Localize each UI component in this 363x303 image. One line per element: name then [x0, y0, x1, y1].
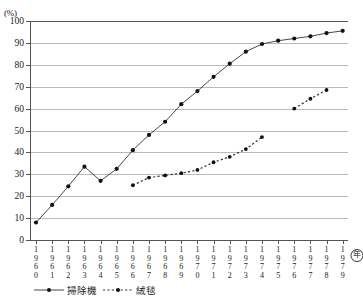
data-point — [98, 179, 102, 183]
data-point — [260, 42, 264, 46]
data-point — [341, 29, 345, 33]
data-point — [244, 50, 248, 54]
data-point — [179, 171, 183, 175]
data-point — [244, 147, 248, 151]
data-point — [115, 167, 119, 171]
data-point — [66, 184, 70, 188]
data-point — [211, 75, 215, 79]
data-point — [212, 160, 216, 164]
data-point — [131, 148, 135, 152]
data-point — [228, 155, 232, 159]
data-point — [324, 31, 328, 35]
legend-item-絨毯[interactable]: 絨毯 — [103, 283, 156, 297]
data-point — [163, 173, 167, 177]
legend-label: 絨毯 — [136, 283, 156, 297]
data-point — [163, 120, 167, 124]
data-point — [131, 183, 135, 187]
data-point — [292, 36, 296, 40]
chart-legend: 掃除機絨毯 — [34, 283, 156, 297]
legend-swatch-solid — [34, 286, 64, 294]
data-point — [179, 102, 183, 106]
data-point — [34, 220, 38, 224]
legend-label: 掃除機 — [67, 283, 97, 297]
data-point — [50, 203, 54, 207]
legend-item-掃除機[interactable]: 掃除機 — [34, 283, 97, 297]
data-point — [308, 34, 312, 38]
data-point — [276, 39, 280, 43]
series-line-掃除機 — [36, 31, 343, 223]
data-point — [228, 62, 232, 66]
data-point — [309, 97, 313, 101]
data-point — [260, 135, 264, 139]
data-point — [195, 89, 199, 93]
legend-swatch-dashed — [103, 286, 133, 294]
data-point — [196, 168, 200, 172]
data-point — [325, 88, 329, 92]
data-point — [82, 165, 86, 169]
data-point — [147, 133, 151, 137]
data-point — [147, 176, 151, 180]
data-point — [292, 107, 296, 111]
series-line-絨毯 — [133, 137, 262, 185]
